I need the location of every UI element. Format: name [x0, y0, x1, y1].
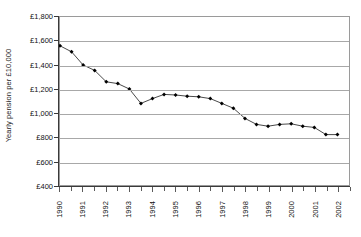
y-axis-tick: [54, 65, 59, 66]
data-point-marker: [289, 122, 293, 126]
data-point-marker: [150, 97, 154, 101]
x-axis-tick: [141, 187, 142, 191]
x-axis-tick: [164, 187, 165, 191]
x-axis-tick-label: 1991: [77, 192, 87, 232]
x-axis-tick-label-text: 1994: [148, 201, 157, 218]
y-axis-title: Yearly pension per £10,000: [0, 0, 18, 190]
x-axis-tick-label: 2000: [287, 192, 297, 232]
x-axis-tick-label: 1998: [240, 192, 250, 232]
data-point-marker: [255, 122, 259, 126]
y-axis-tick: [54, 16, 59, 17]
y-axis-tick-label: £400: [36, 182, 53, 191]
x-axis-tick: [303, 187, 304, 191]
x-axis-tick-label: 1993: [124, 192, 134, 232]
x-axis-tick-label-text: 1993: [124, 201, 133, 218]
x-axis-tick-label-text: 1992: [101, 201, 110, 218]
x-axis-tick-label: 1990: [54, 192, 64, 232]
x-axis-tick-label-text: 1990: [55, 201, 64, 218]
x-axis-tick-label-text: 2001: [311, 201, 320, 218]
x-axis-tick-label-text: 1998: [241, 201, 250, 218]
x-axis-tick-label: 1995: [170, 192, 180, 232]
gridline: [60, 66, 349, 67]
x-axis-tick-label: 1997: [217, 192, 227, 232]
x-axis-tick: [210, 187, 211, 191]
data-point-marker: [174, 93, 178, 97]
x-axis-tick-label-text: 1999: [264, 201, 273, 218]
data-point-marker: [335, 133, 339, 137]
x-axis-tick-label-text: 2002: [334, 201, 343, 218]
x-axis-tick-labels: 1990199119921993199419951996199719981999…: [0, 192, 361, 237]
x-axis-tick-label: 1999: [264, 192, 274, 232]
x-axis-tick-label-text: 1991: [78, 201, 87, 218]
gridline: [60, 41, 349, 42]
y-axis-tick-label: £1,200: [30, 84, 53, 93]
x-axis-tick: [71, 187, 72, 191]
y-axis-tick-label: £1,000: [30, 109, 53, 118]
y-axis-tick-label: £600: [36, 157, 53, 166]
x-axis-tick: [350, 187, 351, 191]
x-axis-tick-label-text: 1995: [171, 201, 180, 218]
x-axis-tick: [234, 187, 235, 191]
x-axis-tick-label: 1994: [147, 192, 157, 232]
x-axis-tick: [280, 187, 281, 191]
gridline: [60, 90, 349, 91]
x-axis-tick-label: 2002: [333, 192, 343, 232]
x-axis-tick: [94, 187, 95, 191]
data-point-marker: [185, 94, 189, 98]
y-axis-tick-label: £1,800: [30, 12, 53, 21]
y-axis-tick: [54, 89, 59, 90]
y-axis-tick-label: £1,400: [30, 60, 53, 69]
x-axis-tick: [187, 187, 188, 191]
data-point-marker: [266, 124, 270, 128]
y-axis-tick: [54, 137, 59, 138]
y-axis-tick: [54, 40, 59, 41]
x-axis-tick-label-text: 2000: [287, 201, 296, 218]
x-axis-tick-label: 2001: [310, 192, 320, 232]
x-axis-tick: [257, 187, 258, 191]
y-axis-tick-label: £800: [36, 133, 53, 142]
x-axis-tick: [327, 187, 328, 191]
data-point-marker: [116, 82, 120, 86]
y-axis-tick: [54, 162, 59, 163]
data-point-marker: [197, 95, 201, 99]
plot-area: [59, 16, 350, 186]
x-axis-tick-label: 1992: [101, 192, 111, 232]
data-point-marker: [162, 92, 166, 96]
gridline: [60, 114, 349, 115]
gridline: [60, 138, 349, 139]
x-axis-tick-label-text: 1996: [194, 201, 203, 218]
y-axis-tick: [54, 113, 59, 114]
y-axis-title-text: Yearly pension per £10,000: [5, 48, 14, 142]
x-axis-tick-label-text: 1997: [218, 201, 227, 218]
pension-line-chart: Yearly pension per £10,000 £1,800£1,600£…: [0, 0, 361, 237]
x-axis-tick-label: 1996: [194, 192, 204, 232]
gridline: [60, 163, 349, 164]
data-point-marker: [208, 97, 212, 101]
x-axis-spine: [58, 186, 350, 187]
data-point-marker: [278, 122, 282, 126]
data-point-marker: [301, 124, 305, 128]
data-point-marker: [220, 101, 224, 105]
x-axis-tick: [117, 187, 118, 191]
y-axis-tick-labels: £1,800£1,600£1,400£1,200£1,000£800£600£4…: [18, 0, 56, 200]
y-axis-tick-label: £1,600: [30, 36, 53, 45]
